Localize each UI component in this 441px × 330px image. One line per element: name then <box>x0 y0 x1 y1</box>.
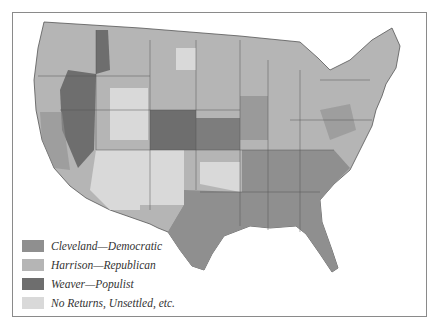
legend-item-no-returns: No Returns, Unsettled, etc. <box>22 293 175 312</box>
map-legend: Cleveland—Democratic Harrison—Republican… <box>22 236 175 312</box>
no-returns-utah <box>110 88 148 140</box>
no-returns-newmexico <box>140 150 184 205</box>
democratic-midwest-patches <box>240 96 268 140</box>
legend-label: No Returns, Unsettled, etc. <box>51 297 175 309</box>
legend-label: Harrison—Republican <box>51 259 156 271</box>
legend-label: Cleveland—Democratic <box>51 240 162 252</box>
populist-kansas <box>196 118 240 150</box>
no-returns-dakota <box>176 48 196 70</box>
swatch-no-returns <box>22 297 44 309</box>
populist-idaho <box>96 30 110 74</box>
legend-label: Weaver—Populist <box>51 278 134 290</box>
legend-item-populist: Weaver—Populist <box>22 274 175 293</box>
legend-item-republican: Harrison—Republican <box>22 255 175 274</box>
swatch-republican <box>22 259 44 271</box>
populist-colorado <box>150 110 196 150</box>
swatch-populist <box>22 278 44 290</box>
legend-item-democratic: Cleveland—Democratic <box>22 236 175 255</box>
swatch-democratic <box>22 240 44 252</box>
